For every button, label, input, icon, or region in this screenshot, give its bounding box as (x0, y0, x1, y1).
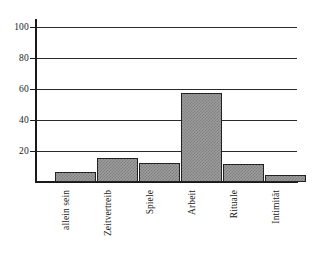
x-label-slot-0: allein sein (61, 0, 73, 70)
y-tick-label: 60 (1, 85, 29, 95)
y-tick-label: 80 (1, 54, 29, 64)
x-label-slot-3: Arbeit (187, 0, 199, 70)
x-label-slot-5: Intimität (271, 0, 283, 70)
bar-zeitvertreib (97, 158, 138, 182)
y-tick-label: 20 (1, 147, 29, 157)
bar-arbeit (181, 93, 222, 182)
bar-allein-sein (55, 172, 96, 182)
x-axis-label-zeitvertreib: Zeitvertreib (103, 190, 113, 236)
x-axis-label-rituale: Rituale (229, 190, 239, 218)
y-tick-label: 100 (1, 23, 29, 33)
x-label-slot-1: Zeitvertreib (103, 0, 115, 70)
x-label-slot-2: Spiele (145, 0, 157, 70)
bar-spiele (139, 163, 180, 182)
x-label-slot-4: Rituale (229, 0, 241, 70)
bar-chart: 100 80 60 40 20 allein sein Zeitvertreib… (0, 0, 320, 261)
bar-rituale (223, 164, 264, 182)
y-tick-label: 40 (1, 116, 29, 126)
x-axis-label-allein-sein: allein sein (61, 190, 71, 230)
bar-intimitaet (265, 175, 306, 182)
x-axis-label-spiele: Spiele (145, 190, 155, 214)
plot-area (36, 27, 297, 182)
x-axis-label-intimitaet: Intimität (271, 190, 281, 224)
x-axis-label-arbeit: Arbeit (187, 190, 197, 215)
